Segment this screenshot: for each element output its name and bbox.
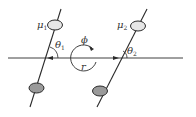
- theta2-label: θ2: [127, 45, 137, 57]
- arrow-left-icon: [47, 56, 53, 60]
- mu1-label: μ1: [37, 19, 47, 31]
- dipole-1-top-charge: [48, 20, 63, 30]
- dipole-2-top-charge: [131, 21, 146, 31]
- dipole-2-bottom-charge: [93, 86, 108, 96]
- mu2-label: μ2: [117, 19, 128, 31]
- separation-axis: [8, 56, 183, 60]
- dipole-diagram: μ1 θ1 ϕ r μ2 θ2: [0, 0, 196, 117]
- arrow-right-icon: [113, 56, 119, 60]
- rotation-arrowhead-icon: [89, 46, 94, 51]
- dipole-1-bottom-charge: [29, 83, 44, 93]
- phi-label: ϕ: [81, 34, 88, 45]
- theta1-label: θ1: [55, 39, 65, 51]
